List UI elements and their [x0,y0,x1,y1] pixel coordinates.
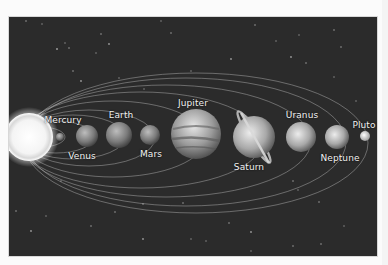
planet-venus [76,125,98,147]
solar-system-diagram: Mercury Venus Earth Mars Jupiter Saturn … [8,16,378,257]
planet-mercury [56,133,64,141]
planet-earth [106,122,132,148]
planet-jupiter [171,109,221,159]
planet-mars [140,125,160,145]
label-saturn: Saturn [234,162,264,172]
label-neptune: Neptune [320,153,359,163]
diagram-canvas [8,16,378,257]
label-mercury: Mercury [44,115,81,125]
planet-uranus [286,122,316,152]
label-pluto: Pluto [352,120,375,130]
label-earth: Earth [109,110,134,120]
label-venus: Venus [68,151,96,161]
page-edge [382,0,388,265]
label-jupiter: Jupiter [178,98,208,108]
label-mars: Mars [140,149,162,159]
label-uranus: Uranus [286,110,319,120]
planet-saturn [233,109,275,165]
planet-pluto [360,131,370,141]
planet-neptune [325,125,349,149]
